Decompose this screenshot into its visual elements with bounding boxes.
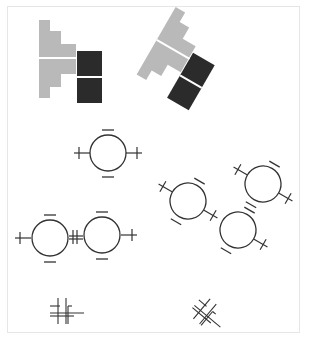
connector-upright: [50, 298, 84, 324]
atom-single: [74, 130, 142, 177]
piece-upright: [39, 20, 102, 103]
atom-trio-rotated: [147, 147, 304, 268]
atom-pair: [15, 212, 137, 262]
diagram-canvas: [0, 0, 309, 339]
piece-rotated: [134, 7, 230, 110]
connector-rotated: [187, 294, 230, 336]
